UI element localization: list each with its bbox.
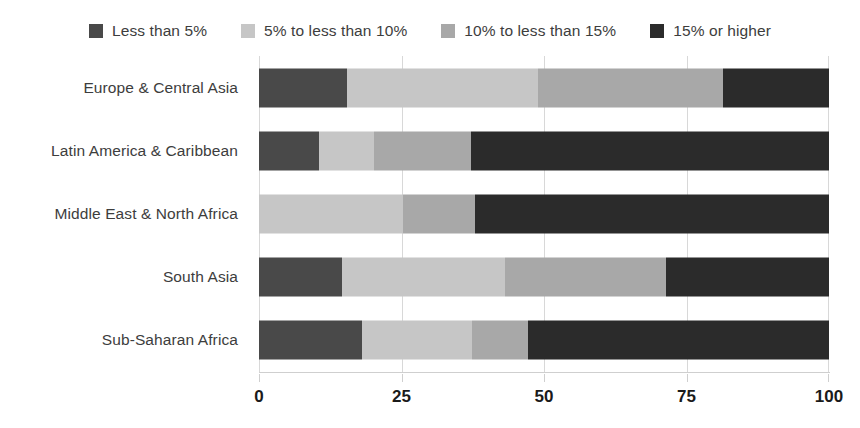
x-axis-tick-mark <box>828 374 829 382</box>
x-axis-tick-label: 0 <box>254 387 263 407</box>
bar-segment[interactable] <box>505 258 666 297</box>
bar-row[interactable] <box>259 68 829 107</box>
x-axis-tick-label: 25 <box>392 387 411 407</box>
legend-item[interactable]: Less than 5% <box>89 22 207 40</box>
bar-segment[interactable] <box>319 131 374 170</box>
bar-segment[interactable] <box>666 258 829 297</box>
legend-item[interactable]: 15% or higher <box>650 22 771 40</box>
bar-segment[interactable] <box>374 131 471 170</box>
bar-segment[interactable] <box>471 131 829 170</box>
x-axis-ticks: 0255075100 <box>259 374 829 414</box>
bar-row[interactable] <box>259 131 829 170</box>
x-axis-tick-label: 75 <box>677 387 696 407</box>
x-axis-tick-mark <box>544 374 545 382</box>
x-axis-tick-mark <box>259 374 260 382</box>
square-swatch-icon <box>89 24 103 38</box>
legend-item[interactable]: 10% to less than 15% <box>441 22 616 40</box>
bar-segment[interactable] <box>259 321 362 360</box>
y-axis-tick-label: South Asia <box>163 268 238 286</box>
bar-segment[interactable] <box>403 195 475 234</box>
plot-region: Europe & Central AsiaLatin America & Car… <box>0 56 860 428</box>
bar-segment[interactable] <box>475 195 829 234</box>
legend-item-label: 15% or higher <box>673 22 771 40</box>
y-axis-tick-label: Sub-Saharan Africa <box>102 331 238 349</box>
legend-item-label: 10% to less than 15% <box>464 22 616 40</box>
legend-item-label: Less than 5% <box>112 22 207 40</box>
bar-row[interactable] <box>259 258 829 297</box>
bar-segment[interactable] <box>342 258 506 297</box>
x-axis-tick-mark <box>402 374 403 382</box>
bar-segment[interactable] <box>259 68 347 107</box>
y-axis-tick-label: Europe & Central Asia <box>83 79 238 97</box>
bar-row[interactable] <box>259 321 829 360</box>
x-axis-tick-label: 50 <box>535 387 554 407</box>
y-axis-tick-label: Latin America & Caribbean <box>51 142 238 160</box>
square-swatch-icon <box>650 24 664 38</box>
bar-segment[interactable] <box>347 68 538 107</box>
x-axis-tick-mark <box>687 374 688 382</box>
stacked-bar-chart: Less than 5%5% to less than 10%10% to le… <box>0 0 860 428</box>
x-axis-line <box>259 372 830 373</box>
chart-legend: Less than 5%5% to less than 10%10% to le… <box>0 16 860 46</box>
legend-item-label: 5% to less than 10% <box>264 22 407 40</box>
y-axis-tick-label: Middle East & North Africa <box>54 205 238 223</box>
bar-segment[interactable] <box>259 258 342 297</box>
plot-area <box>259 56 829 372</box>
bar-row[interactable] <box>259 195 829 234</box>
bar-segment[interactable] <box>472 321 528 360</box>
bar-segment[interactable] <box>362 321 473 360</box>
bar-segment[interactable] <box>259 195 403 234</box>
legend-item[interactable]: 5% to less than 10% <box>241 22 407 40</box>
square-swatch-icon <box>441 24 455 38</box>
bar-series-container <box>259 56 829 372</box>
bar-segment[interactable] <box>723 68 829 107</box>
bar-segment[interactable] <box>259 131 319 170</box>
bar-segment[interactable] <box>538 68 723 107</box>
bar-segment[interactable] <box>528 321 829 360</box>
square-swatch-icon <box>241 24 255 38</box>
x-axis-tick-label: 100 <box>815 387 843 407</box>
y-axis-category-labels: Europe & Central AsiaLatin America & Car… <box>0 56 250 372</box>
